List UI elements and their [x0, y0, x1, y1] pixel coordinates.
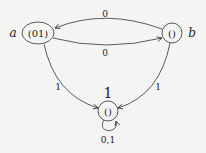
transition-a-1	[44, 44, 98, 108]
state-diagram: (01) a () b () 1 0 0 1 1 0,1	[0, 0, 206, 153]
transition-b-a-label: 0	[102, 9, 108, 19]
state-1-content: ()	[104, 106, 112, 117]
transition-a-1-label: 1	[55, 82, 61, 92]
transition-1-1	[102, 120, 116, 131]
state-b-name: b	[188, 26, 196, 40]
transition-b-a	[55, 18, 162, 29]
transition-b-1-label: 1	[155, 82, 161, 92]
transition-1-1-label: 0,1	[101, 135, 115, 145]
state-b: () b	[162, 23, 196, 43]
state-1: () 1	[98, 85, 118, 121]
state-a-content: (01)	[28, 28, 49, 39]
transition-a-b	[53, 38, 162, 45]
state-a-name: a	[9, 26, 16, 40]
state-1-name: 1	[104, 85, 113, 101]
transition-a-b-label: 0	[102, 48, 108, 58]
state-a: (01) a	[9, 22, 54, 44]
transition-b-1	[118, 43, 170, 108]
state-b-content: ()	[168, 28, 176, 39]
